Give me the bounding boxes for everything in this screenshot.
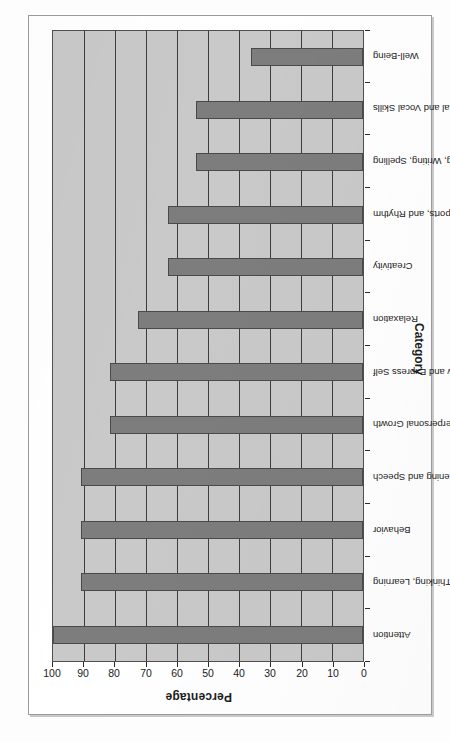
value-tick-label: 90 xyxy=(77,667,89,679)
value-tick-label: 10 xyxy=(327,667,339,679)
bar-slot xyxy=(53,556,363,609)
value-tick-mark xyxy=(146,662,147,667)
value-tick-label: 80 xyxy=(109,667,121,679)
bar-slot xyxy=(53,241,363,294)
rotated-chart-canvas: Percentage 0102030405060708090100 Attent… xyxy=(34,20,426,710)
value-tick-mark xyxy=(302,662,303,667)
value-tick-mark xyxy=(364,662,365,667)
bar[interactable] xyxy=(196,101,363,119)
bar-slot xyxy=(53,294,363,347)
category-tick-mark xyxy=(365,82,370,83)
bar[interactable] xyxy=(81,468,363,486)
bar-slot xyxy=(53,84,363,137)
bar-slot xyxy=(53,136,363,189)
value-tick-mark xyxy=(333,662,334,667)
value-tick-label: 40 xyxy=(233,667,245,679)
category-tick-mark xyxy=(365,661,370,662)
value-tick-mark xyxy=(52,662,53,667)
category-tick-mark xyxy=(365,30,370,31)
category-tick-mark xyxy=(365,345,370,346)
value-tick-mark xyxy=(114,662,115,667)
value-tick-mark xyxy=(270,662,271,667)
category-tick-label: Attention xyxy=(373,630,411,641)
category-tick-mark xyxy=(365,503,370,504)
category-tick-mark xyxy=(365,292,370,293)
bar-slot xyxy=(53,189,363,242)
category-tick-mark xyxy=(365,450,370,451)
category-tick-mark xyxy=(365,608,370,609)
chart-area: Percentage 0102030405060708090100 Attent… xyxy=(34,20,426,710)
bar[interactable] xyxy=(81,521,363,539)
value-tick-mark xyxy=(83,662,84,667)
scanned-page-frame: Percentage 0102030405060708090100 Attent… xyxy=(28,15,432,715)
bar-slot xyxy=(53,451,363,504)
bar[interactable] xyxy=(168,206,363,224)
bar[interactable] xyxy=(196,153,363,171)
category-axis-title: Category xyxy=(408,28,426,670)
category-tick-mark xyxy=(365,556,370,557)
category-tick-mark xyxy=(365,187,370,188)
bar-slot xyxy=(53,346,363,399)
category-tick-mark xyxy=(365,398,370,399)
bar-slot xyxy=(53,504,363,557)
plot-area xyxy=(52,30,364,662)
bar-series xyxy=(53,31,363,661)
bar[interactable] xyxy=(81,573,363,591)
bar[interactable] xyxy=(138,311,363,329)
bar[interactable] xyxy=(53,626,363,644)
category-tick-mark xyxy=(365,134,370,135)
category-tick-label: Behavior xyxy=(373,525,411,536)
bar-slot xyxy=(53,399,363,452)
category-tick-mark xyxy=(365,240,370,241)
value-tick-label: 100 xyxy=(43,667,61,679)
value-tick-mark xyxy=(177,662,178,667)
bar[interactable] xyxy=(110,363,363,381)
value-axis-ticks: 0102030405060708090100 xyxy=(52,662,364,688)
bar[interactable] xyxy=(168,258,363,276)
bar-slot xyxy=(53,609,363,662)
value-tick-label: 30 xyxy=(265,667,277,679)
value-tick-mark xyxy=(239,662,240,667)
value-axis-title: Percentage xyxy=(34,686,364,708)
category-tick-label: Creativity xyxy=(373,261,413,272)
bar-slot xyxy=(53,31,363,84)
value-tick-label: 50 xyxy=(202,667,214,679)
value-tick-label: 20 xyxy=(296,667,308,679)
value-tick-label: 70 xyxy=(140,667,152,679)
value-tick-label: 60 xyxy=(171,667,183,679)
value-tick-label: 0 xyxy=(361,667,367,679)
bar[interactable] xyxy=(251,48,363,66)
bar[interactable] xyxy=(110,416,363,434)
value-tick-mark xyxy=(208,662,209,667)
